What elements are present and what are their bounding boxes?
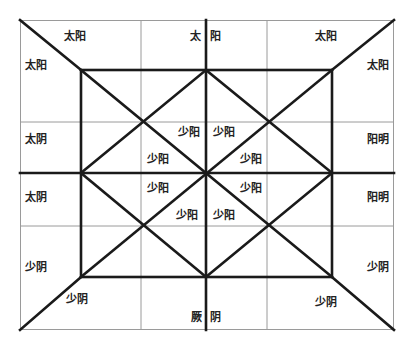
label-inner-ul-2: 少阳	[147, 154, 169, 166]
label-left-upper: 太阴	[25, 134, 47, 146]
label-inner-ur-1: 少阳	[213, 127, 235, 139]
label-inner-ur-2: 少阳	[240, 154, 262, 166]
label-bottom-right-a: 少阴	[315, 297, 337, 309]
label-top-center-right: 阳	[210, 31, 221, 43]
label-inner-lr-1: 少阳	[240, 183, 262, 195]
diagram-lines	[0, 0, 414, 350]
label-bottom-center-right: 阴	[210, 312, 221, 324]
label-right-upper: 阳明	[367, 134, 389, 146]
label-top-center-left: 太	[190, 31, 201, 43]
label-bottom-right-b: 少阴	[367, 262, 389, 274]
corner-diagonal-br	[332, 277, 394, 330]
label-inner-ll-2: 少阳	[176, 210, 198, 222]
label-inner-ul-1: 少阳	[178, 127, 200, 139]
label-top-right-a: 太阳	[315, 31, 337, 43]
label-top-right-b: 太阳	[367, 60, 389, 72]
label-top-left-a: 太阳	[64, 31, 86, 43]
heavy-lines	[20, 20, 394, 330]
label-inner-lr-2: 少阳	[213, 210, 235, 222]
label-inner-ll-1: 少阳	[147, 183, 169, 195]
label-bottom-left-b: 少阴	[66, 294, 88, 306]
label-bottom-left-a: 少阴	[25, 262, 47, 274]
label-right-lower: 阳明	[367, 192, 389, 204]
label-top-left-b: 太阳	[25, 60, 47, 72]
label-left-lower: 太阴	[25, 192, 47, 204]
six-channels-diagram: 太阳 太阳 太 阳 太阳 太阳 太阴 太阴 阳明 阳明 少阴 少阴 厥 阴 少阴…	[0, 0, 414, 350]
label-bottom-center-left: 厥	[191, 312, 202, 324]
